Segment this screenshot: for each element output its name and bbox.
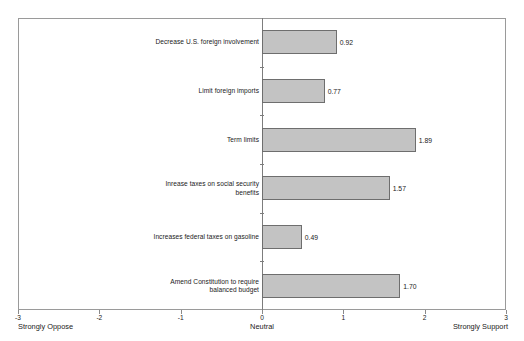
category-label: Increases federal taxes on gasoline [20,233,259,241]
bar-value-label: 0.92 [340,39,353,46]
bar-value-label: 0.77 [328,87,341,94]
axis-label-neutral: Neutral [250,322,274,331]
x-axis-tick-label: 1 [341,314,345,321]
bar [262,225,302,249]
axis-label-strongly-support: Strongly Support [453,322,508,331]
x-axis-tick-label: -2 [96,314,102,321]
x-axis-tick-label: -3 [15,314,21,321]
bar-value-label: 1.70 [403,282,416,289]
bar-row: Term limits1.89 [0,115,524,164]
bar [262,79,325,103]
bar [262,176,390,200]
bar [262,30,337,54]
category-label: Inrease taxes on social security benefit… [20,180,259,197]
x-axis-tick-label: 3 [504,314,508,321]
category-label: Term limits [20,135,259,143]
x-axis-tick-label: 2 [423,314,427,321]
bar-row: Amend Constitution to require balanced b… [0,261,524,310]
bar-row: Limit foreign imports0.77 [0,67,524,116]
bar-value-label: 0.49 [305,233,318,240]
bar [262,274,400,298]
category-label: Amend Constitution to require balanced b… [20,277,259,294]
bar [262,128,416,152]
bar-row: Inrease taxes on social security benefit… [0,164,524,213]
category-label: Decrease U.S. foreign involvement [20,38,259,46]
bar-row: Increases federal taxes on gasoline0.49 [0,213,524,262]
axis-label-strongly-oppose: Strongly Oppose [18,322,73,331]
bar-row: Decrease U.S. foreign involvement0.92 [0,18,524,67]
bar-chart: Decrease U.S. foreign involvement0.92Lim… [0,0,524,341]
x-axis-tick-label: 0 [260,314,264,321]
bar-value-label: 1.57 [393,185,406,192]
bar-value-label: 1.89 [419,136,432,143]
category-label: Limit foreign imports [20,87,259,95]
x-axis-tick-label: -1 [178,314,184,321]
